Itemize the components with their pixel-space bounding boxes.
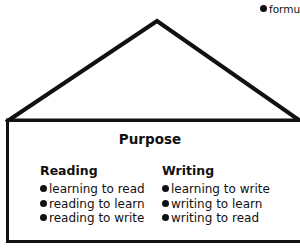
- bullet-icon: [162, 185, 169, 192]
- bullet-icon: [260, 5, 267, 12]
- writing-heading: Writing: [162, 163, 270, 178]
- bullet-icon: [40, 200, 47, 207]
- list-item-text: reading to learn: [49, 197, 145, 211]
- list-item: writing to learn: [162, 197, 270, 212]
- list-item-text: writing to learn: [171, 197, 262, 211]
- list-item: reading to write: [40, 211, 145, 226]
- list-item-text: writing to read: [171, 211, 259, 225]
- bullet-icon: [162, 200, 169, 207]
- list-item-text: learning to read: [49, 182, 145, 196]
- purpose-title: Purpose: [0, 131, 300, 147]
- bullet-icon: [162, 214, 169, 221]
- list-item-text: reading to write: [49, 211, 144, 225]
- bullet-icon: [40, 214, 47, 221]
- list-item: writing to read: [162, 211, 270, 226]
- list-item: learning to write: [162, 182, 270, 197]
- reading-heading: Reading: [40, 163, 145, 178]
- cutoff-item-text: formu: [269, 3, 300, 15]
- cutoff-bullet-item: formu: [260, 3, 300, 15]
- list-item: learning to read: [40, 182, 145, 197]
- list-item: reading to learn: [40, 197, 145, 212]
- bullet-icon: [40, 185, 47, 192]
- reading-column: Reading learning to read reading to lear…: [40, 163, 145, 226]
- list-item-text: learning to write: [171, 182, 270, 196]
- writing-column: Writing learning to write writing to lea…: [162, 163, 270, 226]
